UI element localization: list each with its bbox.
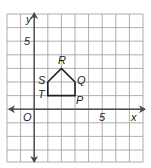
vertex-label-p: P <box>76 94 84 106</box>
y-axis-label: y <box>25 13 33 25</box>
x-tick-label-5: 5 <box>99 111 106 123</box>
vertex-label-s: S <box>38 74 46 86</box>
origin-label: O <box>23 111 32 123</box>
y-tick-label-5: 5 <box>24 35 31 47</box>
coordinate-plane: y x O 5 5 R S Q T P <box>0 0 151 168</box>
vertex-label-r: R <box>58 54 66 66</box>
x-axis-label: x <box>130 111 137 123</box>
vertex-label-q: Q <box>77 74 86 86</box>
vertex-label-t: T <box>38 88 46 100</box>
